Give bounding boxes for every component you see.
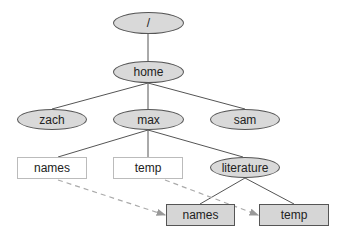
node-label: max [137,113,160,127]
node-max-names: names [17,157,87,179]
node-max-temp: temp [113,157,183,179]
node-home: home [113,61,184,83]
node-label: / [147,16,150,30]
node-label: names [34,161,70,175]
node-label: names [182,208,218,222]
node-root: / [113,12,184,34]
node-literature-temp: temp [259,204,329,226]
node-label: sam [234,113,257,127]
node-literature-names: names [166,204,235,226]
node-zach: zach [17,109,87,130]
node-label: temp [281,208,308,222]
node-sam: sam [210,109,280,130]
node-max: max [113,109,184,130]
node-label: literature [222,161,269,175]
node-literature: literature [210,157,280,178]
node-label: home [133,65,163,79]
node-label: temp [135,161,162,175]
node-label: zach [39,113,64,127]
